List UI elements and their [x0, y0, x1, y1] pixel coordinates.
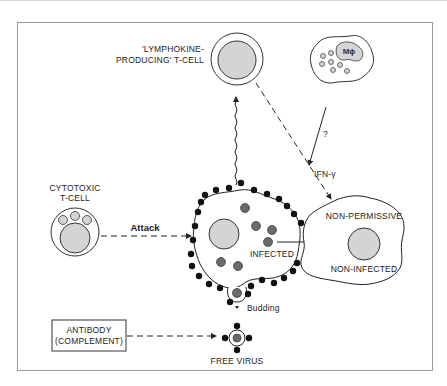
free-virus: [222, 323, 252, 353]
infected-cell: [188, 180, 304, 291]
non-infected-label: NON-INFECTED: [331, 264, 398, 274]
lymphokine-dashed-arrow: [256, 83, 331, 199]
wavy-signal-line: [235, 97, 237, 185]
non-permissive-label: NON-PERMISSIVE: [326, 211, 403, 221]
lymphokine-t-cell: [211, 33, 263, 85]
ifn-gamma-label: IFN-γ: [314, 169, 336, 179]
macrophage-cell: Mϕ: [310, 35, 373, 83]
cytotoxic-label-1: CYTOTOXIC: [49, 183, 100, 193]
budding-arrow-icon: [235, 306, 239, 309]
infected-label: INFECTED: [250, 249, 294, 259]
cytotoxic-label-2: T-CELL: [60, 193, 90, 203]
immune-response-diagram: 'LYMPHOKINE- PRODUCING' T-CELL Mϕ ? IFN-…: [0, 0, 447, 386]
question-label: ?: [323, 129, 328, 139]
free-virus-label: FREE VIRUS: [210, 356, 263, 366]
antibody-label-1: ANTIBODY: [66, 325, 111, 335]
antibody-label-2: (COMPLEMENT): [55, 336, 123, 346]
macrophage-label: Mϕ: [343, 47, 356, 56]
budding-label: Budding: [247, 303, 280, 313]
cytotoxic-t-cell: [51, 208, 99, 256]
lymphokine-label-1: 'LYMPHOKINE-: [142, 44, 204, 54]
attack-label: Attack: [130, 222, 160, 233]
lymphokine-label-2: PRODUCING' T-CELL: [116, 55, 204, 65]
